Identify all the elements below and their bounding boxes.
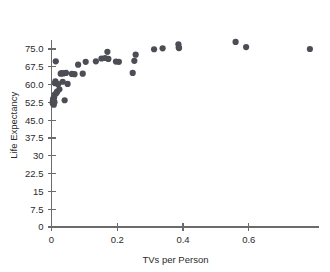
y-tick-label: 15 bbox=[33, 186, 44, 197]
data-point bbox=[62, 97, 68, 103]
data-point bbox=[243, 44, 249, 50]
data-point bbox=[75, 62, 81, 68]
y-axis: 07.51522.53037.545.052.560.067.575.0 bbox=[25, 40, 56, 233]
chart-screenshot: 07.51522.53037.545.052.560.067.575.0 00.… bbox=[0, 0, 330, 272]
data-point bbox=[233, 39, 239, 45]
y-tick-label: 0 bbox=[38, 221, 43, 232]
y-tick-label: 67.5 bbox=[25, 61, 44, 72]
y-tick-label: 37.5 bbox=[25, 132, 44, 143]
x-axis-title: TVs per Person bbox=[142, 254, 208, 265]
data-point bbox=[65, 81, 71, 87]
y-tick-label: 7.5 bbox=[30, 204, 43, 215]
scatter-plot: 07.51522.53037.545.052.560.067.575.0 00.… bbox=[0, 0, 330, 272]
y-tick-label: 75.0 bbox=[25, 43, 44, 54]
data-point bbox=[133, 52, 139, 58]
data-point bbox=[51, 99, 57, 105]
y-tick-label: 22.5 bbox=[25, 168, 44, 179]
x-tick-label: 0 bbox=[49, 234, 54, 245]
x-axis: 00.20.40.6 bbox=[49, 223, 320, 245]
data-point bbox=[56, 86, 62, 92]
data-point bbox=[130, 70, 136, 76]
data-points-group bbox=[50, 39, 313, 108]
y-tick-label: 60.0 bbox=[25, 79, 44, 90]
data-point bbox=[93, 58, 99, 64]
data-point bbox=[176, 45, 182, 51]
data-point bbox=[80, 71, 86, 77]
data-point bbox=[151, 46, 157, 52]
x-tick-label: 0.6 bbox=[242, 234, 255, 245]
y-tick-label: 30 bbox=[33, 150, 44, 161]
x-tick-label: 0.4 bbox=[176, 234, 189, 245]
data-point bbox=[53, 58, 59, 64]
y-axis-title: Life Expectancy bbox=[8, 91, 19, 158]
data-point bbox=[83, 59, 89, 65]
x-tick-label: 0.2 bbox=[111, 234, 124, 245]
data-point bbox=[307, 46, 313, 52]
data-point bbox=[116, 59, 122, 65]
y-tick-label: 52.5 bbox=[25, 97, 44, 108]
data-point bbox=[63, 70, 69, 76]
data-point bbox=[131, 58, 137, 64]
data-point bbox=[160, 45, 166, 51]
data-point bbox=[104, 49, 110, 55]
data-point bbox=[71, 71, 77, 77]
data-point bbox=[105, 56, 111, 62]
y-tick-label: 45.0 bbox=[25, 115, 44, 126]
